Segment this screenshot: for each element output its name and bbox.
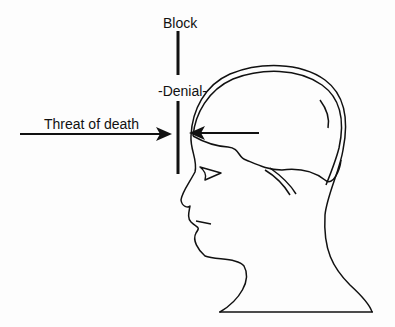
threat-arrow-icon — [20, 127, 172, 141]
return-arrow-icon — [189, 126, 259, 140]
head-profile-icon — [181, 66, 373, 312]
diagram-graphics — [0, 0, 395, 327]
denial-diagram: Block -Denial- Threat of death — [0, 0, 395, 327]
